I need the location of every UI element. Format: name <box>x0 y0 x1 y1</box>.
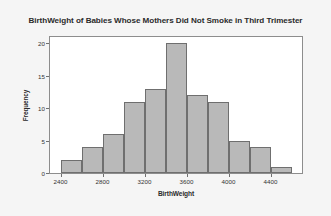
histogram-bar <box>61 160 82 173</box>
x-tick-label: 2400 <box>54 178 68 185</box>
chart-figure: BirthWeight of Babies Whose Mothers Did … <box>0 0 331 216</box>
x-tick-label: 4400 <box>264 178 278 185</box>
x-axis-label: BirthWeight <box>49 190 303 197</box>
plot-frame <box>49 36 303 174</box>
histogram-bar <box>82 147 103 173</box>
x-tick-label: 2800 <box>96 178 110 185</box>
y-tick-label: 15 <box>38 72 45 79</box>
x-axis: 240028003200360040004400 <box>49 174 303 190</box>
histogram-bar <box>229 141 250 173</box>
plot-area <box>50 37 302 173</box>
x-tick-mark <box>103 174 104 177</box>
y-tick-label: 20 <box>38 40 45 47</box>
x-tick-label: 3600 <box>180 178 194 185</box>
x-tick-mark <box>187 174 188 177</box>
x-tick-label: 4000 <box>222 178 236 185</box>
y-tick-label: 10 <box>38 105 45 112</box>
histogram-bar <box>187 95 208 173</box>
y-axis-label-text: Frequency <box>23 89 30 120</box>
histogram-bar <box>103 134 124 173</box>
histogram-bar <box>166 43 187 173</box>
y-tick-label: 0 <box>42 170 45 177</box>
histogram-bar <box>124 102 145 173</box>
x-tick-mark <box>271 174 272 177</box>
y-axis-label: Frequency <box>20 36 32 174</box>
histogram-bar <box>208 102 229 173</box>
histogram-bar <box>250 147 271 173</box>
histogram-bar <box>271 167 292 173</box>
x-tick-label: 3200 <box>138 178 152 185</box>
x-tick-mark <box>145 174 146 177</box>
histogram-bar <box>145 89 166 173</box>
chart-title: BirthWeight of Babies Whose Mothers Did … <box>0 16 331 25</box>
x-tick-mark <box>61 174 62 177</box>
y-axis: 05101520 <box>36 36 49 174</box>
y-tick-label: 5 <box>42 137 45 144</box>
x-tick-mark <box>229 174 230 177</box>
